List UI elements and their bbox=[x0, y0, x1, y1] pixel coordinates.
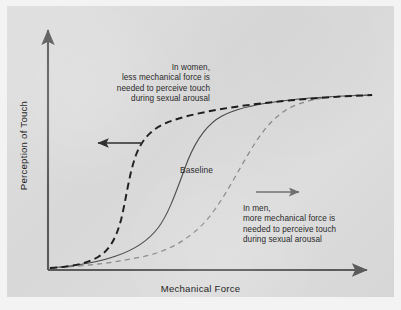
annotation-men: In men, more mechanical force is needed … bbox=[243, 204, 389, 246]
baseline-curve-label: Baseline bbox=[180, 165, 213, 175]
annotation-women: In women, less mechanical force is neede… bbox=[78, 63, 210, 105]
y-axis-label: Perception of Touch bbox=[18, 66, 29, 226]
chart-canvas bbox=[0, 0, 401, 310]
figure-container: In women, less mechanical force is neede… bbox=[0, 0, 401, 310]
x-axis-label: Mechanical Force bbox=[0, 283, 401, 294]
